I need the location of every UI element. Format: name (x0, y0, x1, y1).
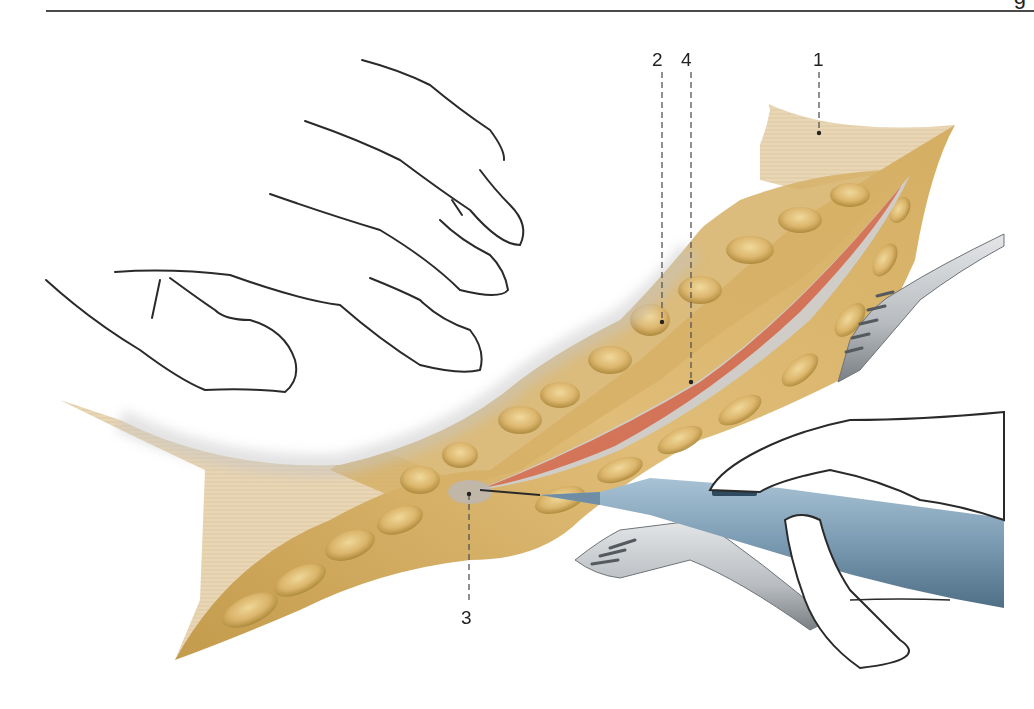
callout-label-3: 3 (461, 608, 472, 627)
callout-label-4: 4 (681, 50, 692, 69)
connective-tissue-apex (448, 480, 492, 504)
callout-label-1: 1 (813, 50, 824, 69)
callout-label-2: 2 (652, 50, 663, 69)
surgical-illustration (0, 0, 1034, 709)
textbook-page: g (0, 0, 1034, 709)
